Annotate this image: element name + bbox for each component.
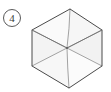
label-number: 4: [9, 12, 15, 24]
hexagon-center-point: [66, 47, 68, 49]
figure-container: 4: [0, 0, 111, 92]
hexagon-figure-svg: 4: [0, 0, 111, 92]
